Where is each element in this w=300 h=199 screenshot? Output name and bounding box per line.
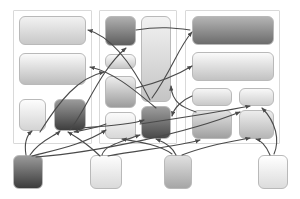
bottom-node-3[interactable]	[164, 155, 192, 189]
node-g3-4[interactable]	[239, 88, 274, 106]
node-g3-1[interactable]	[192, 16, 274, 45]
node-g1-1[interactable]	[19, 16, 86, 45]
node-g3-5[interactable]	[192, 110, 232, 139]
node-g3-6[interactable]	[239, 110, 274, 139]
node-g2-5[interactable]	[141, 16, 171, 102]
diagram-canvas	[0, 0, 300, 199]
node-g1-4[interactable]	[54, 99, 86, 131]
node-g2-4[interactable]	[105, 112, 136, 139]
node-g3-2[interactable]	[192, 52, 274, 81]
node-g3-3[interactable]	[192, 88, 232, 106]
node-g1-3[interactable]	[19, 99, 46, 131]
node-g2-3[interactable]	[105, 76, 136, 108]
node-g2-1[interactable]	[105, 16, 136, 46]
bottom-node-2[interactable]	[90, 155, 122, 189]
bottom-node-1[interactable]	[13, 155, 43, 189]
node-g2-6[interactable]	[141, 106, 171, 139]
node-g1-2[interactable]	[19, 53, 86, 85]
node-g2-2[interactable]	[105, 54, 136, 69]
bottom-node-4[interactable]	[258, 155, 288, 189]
